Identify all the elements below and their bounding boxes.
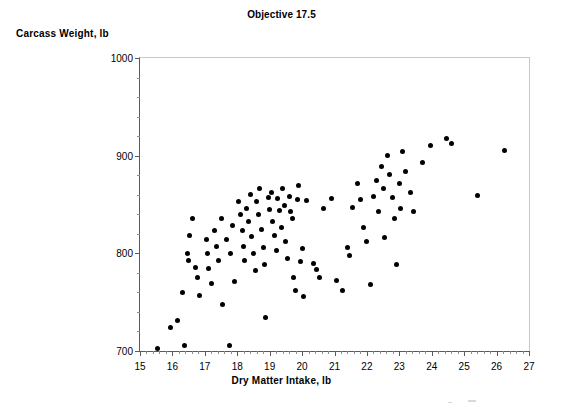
x-axis-minor-tick [289,351,290,354]
data-point [256,212,261,217]
x-axis-minor-tick [179,351,180,354]
data-point [236,199,241,204]
data-point [280,186,285,191]
data-point [382,235,387,240]
data-point [220,302,225,307]
data-point [301,294,306,299]
x-axis-minor-tick [451,351,452,354]
y-axis-minor-tick [137,234,140,235]
x-axis-minor-tick [250,351,251,354]
data-point [185,251,190,256]
x-axis-tick [237,351,238,356]
x-axis-tick [432,351,433,356]
data-point [261,245,266,250]
data-point [296,183,301,188]
x-axis-tick-label: 24 [426,361,437,372]
x-axis-tick [497,351,498,356]
x-axis-minor-tick [283,351,284,354]
x-axis-minor-tick [276,351,277,354]
data-point [216,258,221,263]
y-axis-tick-label: 900 [116,150,133,161]
x-axis-minor-tick [425,351,426,354]
x-axis-minor-tick [354,351,355,354]
x-axis-tick [464,351,465,356]
x-axis-tick [367,351,368,356]
data-point [298,259,303,264]
data-point [197,293,202,298]
data-point [364,239,369,244]
x-axis-minor-tick [244,351,245,354]
x-axis-tick-label: 15 [134,361,145,372]
x-axis-tick [335,351,336,356]
data-point [295,197,300,202]
x-axis-minor-tick [166,351,167,354]
x-axis-tick [205,351,206,356]
data-point [227,343,232,348]
data-point [253,268,258,273]
x-axis-minor-tick [263,351,264,354]
page-title: Objective 17.5 [0,9,563,20]
data-point [232,279,237,284]
data-point [340,288,345,293]
x-axis-tick [399,351,400,356]
data-point [288,209,293,214]
data-point [277,208,282,213]
x-axis-minor-tick [393,351,394,354]
x-axis-minor-tick [224,351,225,354]
data-point [244,206,249,211]
data-point [251,251,256,256]
plot-area: 700800900100015161718192021222324252627 [139,57,530,352]
x-axis-minor-tick [406,351,407,354]
x-axis-minor-tick [159,351,160,354]
data-point [428,143,433,148]
data-point [385,153,390,158]
data-point [224,237,229,242]
data-point [246,219,251,224]
x-axis-minor-tick [380,351,381,354]
data-point [398,206,403,211]
data-point [374,178,379,183]
x-axis-minor-tick [360,351,361,354]
data-point [314,267,319,272]
data-point [403,169,408,174]
scan-artifact [468,400,476,402]
x-axis-title: Dry Matter Intake, lb [0,375,563,386]
data-point [283,239,288,244]
y-axis-minor-tick [137,312,140,313]
data-point [290,216,295,221]
x-axis-tick [140,351,141,356]
data-point [334,278,339,283]
data-point [282,203,287,208]
y-axis-minor-tick [137,117,140,118]
data-point [345,245,350,250]
x-axis-minor-tick [516,351,517,354]
x-axis-minor-tick [419,351,420,354]
data-point [285,256,290,261]
x-axis-tick-label: 16 [167,361,178,372]
data-point [317,275,322,280]
y-axis-tick [135,156,140,157]
data-point [381,186,386,191]
y-axis-minor-tick [137,97,140,98]
x-axis-minor-tick [347,351,348,354]
y-axis-tick-label: 800 [116,248,133,259]
x-axis-minor-tick [477,351,478,354]
data-point [254,199,259,204]
data-point [408,190,413,195]
x-axis-minor-tick [341,351,342,354]
data-point [392,216,397,221]
data-point [400,149,405,154]
data-point [287,194,292,199]
y-axis-minor-tick [137,175,140,176]
x-axis-tick-label: 26 [491,361,502,372]
data-point [230,223,235,228]
x-axis-tick [529,351,530,356]
y-axis-tick [135,58,140,59]
data-point [355,181,360,186]
data-point [219,216,224,221]
data-point [241,244,246,249]
x-axis-minor-tick [153,351,154,354]
x-axis-minor-tick [490,351,491,354]
x-axis-minor-tick [257,351,258,354]
data-point [291,275,296,280]
